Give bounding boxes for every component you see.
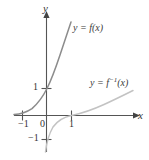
x-axis [14,112,140,118]
x-axis-label: x [138,110,143,121]
inverse-function-figure: y x −1 0 1 1 −1 y = f(x) y = f−1(x) [0,0,149,160]
origin-label: 0 [40,119,45,129]
x-tick-label-1: 1 [69,119,74,129]
curve-label-f-inverse-tail: (x) [117,77,128,88]
curve-f-inverse [46,91,134,153]
y-axis-label: y [43,3,48,14]
curve-label-f-inverse: y = f−1(x) [90,78,128,88]
y-axis [43,11,49,152]
x-tick-label-neg1: −1 [18,119,29,129]
curve-label-f: y = f(x) [73,23,103,33]
curve-label-f-inverse-exponent: −1 [109,76,117,84]
curve-f [14,22,71,115]
curve-label-f-inverse-lead: y = f [90,77,109,88]
y-tick-label-neg1: −1 [28,133,39,143]
y-tick-label-1: 1 [33,82,38,92]
